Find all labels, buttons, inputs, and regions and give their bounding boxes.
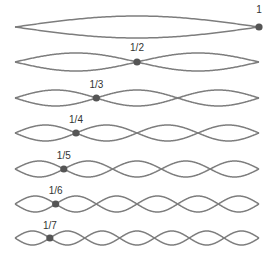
node-dot <box>46 234 53 241</box>
node-dot <box>52 200 59 207</box>
harmonic-row-3: 1/3 <box>15 79 259 106</box>
node-dot <box>60 165 67 172</box>
fraction-label: 1 <box>256 4 262 15</box>
node-dot <box>72 129 79 136</box>
harmonic-row-2: 1/2 <box>15 42 259 71</box>
fraction-label: 1/5 <box>57 150 71 161</box>
harmonic-row-6: 1/6 <box>15 185 259 212</box>
node-dot <box>133 58 140 65</box>
harmonic-row-7: 1/7 <box>15 220 259 245</box>
fraction-label: 1/4 <box>69 114 83 125</box>
string-lower-envelope <box>15 90 259 106</box>
string-lower-envelope <box>15 196 259 212</box>
fraction-label: 1/3 <box>89 79 103 90</box>
fraction-label: 1/6 <box>49 185 63 196</box>
fraction-label: 1/7 <box>43 220 57 231</box>
fraction-label: 1/2 <box>130 42 144 53</box>
node-dot <box>255 23 262 30</box>
string-lower-envelope <box>15 27 259 38</box>
node-dot <box>93 94 100 101</box>
harmonic-row-1: 1 <box>15 4 263 38</box>
string-upper-envelope <box>15 90 259 106</box>
harmonic-row-5: 1/5 <box>15 150 259 177</box>
string-upper-envelope <box>15 16 259 27</box>
harmonic-row-4: 1/4 <box>15 114 259 141</box>
harmonics-diagram: 11/21/31/41/51/61/7 <box>0 0 276 254</box>
string-lower-envelope <box>15 125 259 141</box>
